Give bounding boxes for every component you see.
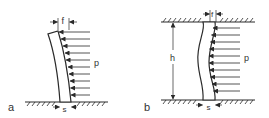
panel-label-b: b bbox=[144, 101, 150, 113]
thickness-label-a: s bbox=[63, 105, 67, 114]
panel-label-a: a bbox=[8, 101, 15, 113]
height-label-b: h bbox=[170, 53, 175, 63]
panel-a: f s p a bbox=[8, 16, 108, 114]
deflected-wall-a bbox=[48, 31, 71, 102]
deflection-label-a: f bbox=[62, 16, 65, 26]
panel-b: f h s p b bbox=[144, 10, 255, 113]
thickness-label-b: s bbox=[207, 103, 211, 112]
load-label-b: p bbox=[244, 53, 249, 63]
load-label-a: p bbox=[94, 58, 99, 68]
deflected-wall-b bbox=[198, 22, 216, 100]
wall-deflection-diagram: f s p a bbox=[0, 0, 269, 118]
deflection-label-b: f bbox=[211, 10, 214, 19]
